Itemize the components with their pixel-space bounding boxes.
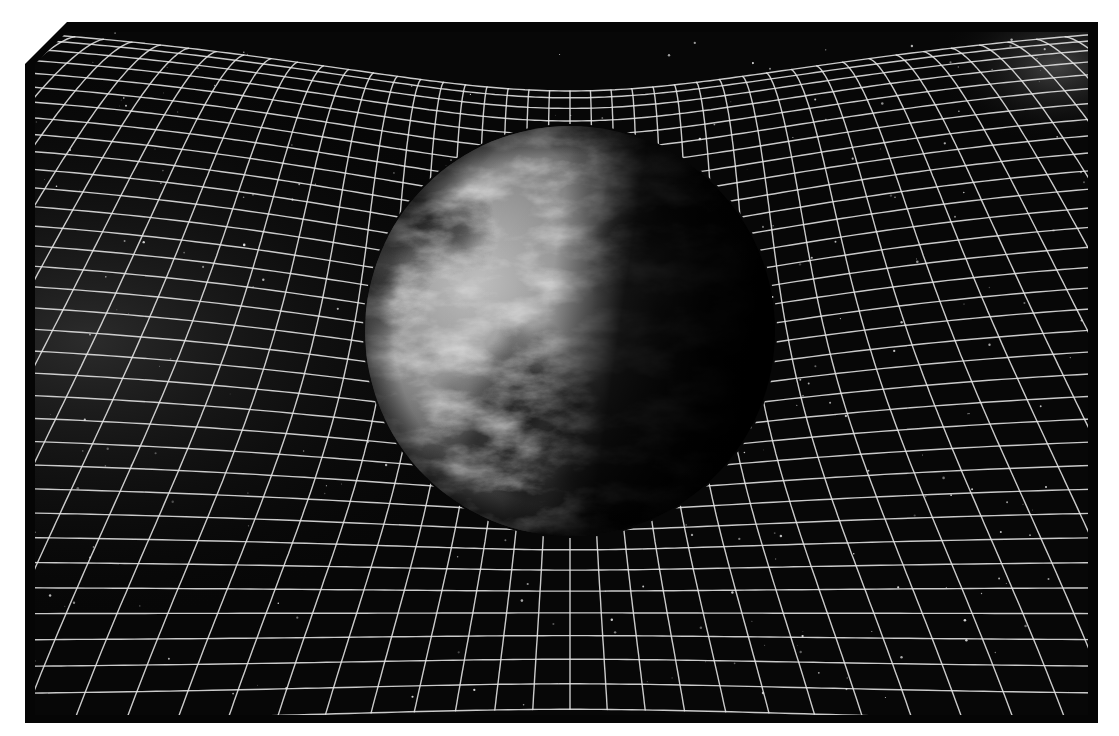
- earth-globe: [365, 126, 775, 536]
- spacetime-illustration: [35, 32, 1088, 715]
- image-frame: [25, 22, 1098, 723]
- spacetime-scene: [35, 32, 1088, 715]
